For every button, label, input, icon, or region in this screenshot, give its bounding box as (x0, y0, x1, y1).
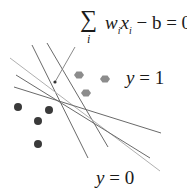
class-0-point (14, 103, 22, 111)
hyperplane-line (47, 43, 108, 147)
class-1-hexagon-icon (74, 72, 84, 79)
class-1-hexagon-icon (100, 76, 110, 83)
equation-body: wixi − b = 0 (105, 12, 187, 36)
class-1-hexagon-icon (81, 90, 91, 97)
summation-index: i (87, 32, 90, 47)
class-0-points (14, 103, 53, 148)
pointer-line (55, 47, 75, 82)
label-value: = 1 (134, 67, 164, 88)
class-0-point (34, 140, 42, 148)
class-1-points (74, 72, 110, 97)
weight-symbol: w (105, 12, 118, 33)
input-symbol: x (120, 12, 128, 33)
equation-pointer (53, 47, 75, 84)
label-value: = 0 (104, 167, 134, 188)
pointer-dot-icon (53, 80, 56, 83)
label-class-1: y = 1 (126, 67, 164, 89)
separating-lines (10, 43, 161, 171)
summation-symbol: ∑ (80, 6, 97, 33)
class-0-point (34, 117, 42, 125)
equation-rest: − b = 0 (132, 12, 187, 33)
label-class-0: y = 0 (96, 167, 134, 189)
class-0-point (45, 106, 53, 114)
